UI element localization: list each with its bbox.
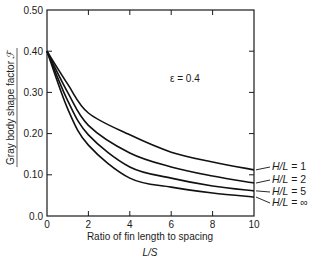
y-tick-label: 0.20	[24, 128, 44, 139]
x-tick-label: 0	[44, 219, 50, 230]
y-axis-ticks: 0.00.100.200.300.400.50	[24, 5, 254, 222]
legend-label: H/L = ∞	[272, 196, 308, 208]
legend-leader-line	[256, 180, 270, 183]
x-tick-label: 2	[86, 219, 92, 230]
legend-label: H/L = 2	[272, 173, 306, 185]
y-axis-symbol: ℱ	[5, 49, 16, 59]
y-tick-label: 0.30	[24, 87, 44, 98]
x-axis-symbol: L/S	[142, 247, 157, 258]
data-curves	[47, 51, 254, 197]
legend: H/L = 1H/L = 2H/L = 5H/L = ∞	[256, 160, 308, 208]
y-tick-label: 0.40	[24, 46, 44, 57]
chart: 0246810 0.00.100.200.300.400.50 H/L = 1H…	[0, 0, 316, 264]
x-tick-label: 10	[248, 219, 260, 230]
y-tick-label: 0.50	[24, 5, 44, 16]
y-tick-label: 0.10	[24, 169, 44, 180]
curve-series	[47, 51, 254, 197]
x-tick-label: 6	[168, 219, 174, 230]
epsilon-annotation: ε = 0.4	[170, 73, 200, 84]
curve-series	[47, 51, 254, 183]
x-tick-label: 8	[210, 219, 216, 230]
x-axis-label: Ratio of fin length to spacing	[87, 231, 213, 242]
legend-leader-line	[256, 191, 270, 192]
legend-leader-line	[256, 167, 270, 170]
y-tick-label: 0.0	[29, 211, 43, 222]
x-tick-label: 4	[127, 219, 133, 230]
y-axis-label: Gray body shape factor	[5, 60, 16, 165]
curve-series	[47, 51, 254, 191]
legend-leader-line	[256, 197, 270, 203]
legend-label: H/L = 1	[272, 160, 306, 172]
